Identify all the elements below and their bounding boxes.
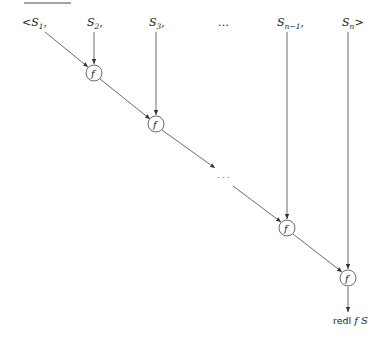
function-node-2: f [148,116,164,132]
input-ellipsis: … [218,16,229,29]
edge-ellipsis-f3 [233,186,281,222]
function-node-4: f [340,270,356,286]
reduce-left-diagram: <S1, S2, S3, … Sn−1, Sn> · · · f f f f r… [0,0,379,344]
middle-ellipsis: · · · [217,173,230,182]
function-node-1: f [86,65,102,81]
edge-f2-ellipsis [162,130,215,168]
edge-f1-f2 [100,79,150,119]
input-label-s2: S2, [87,16,103,31]
input-label-s3: S3, [149,16,165,31]
result-label: redl f S [333,315,368,326]
input-label-s1: <S1, [22,16,47,31]
input-label-sn: Sn> [342,16,364,31]
function-node-3: f [279,220,295,236]
input-label-sn-1: Sn−1, [277,16,304,31]
edge-s1-f1 [45,32,88,67]
diagram-canvas: <S1, S2, S3, … Sn−1, Sn> · · · f f f f r… [0,0,379,344]
edge-f3-f4 [293,234,342,272]
